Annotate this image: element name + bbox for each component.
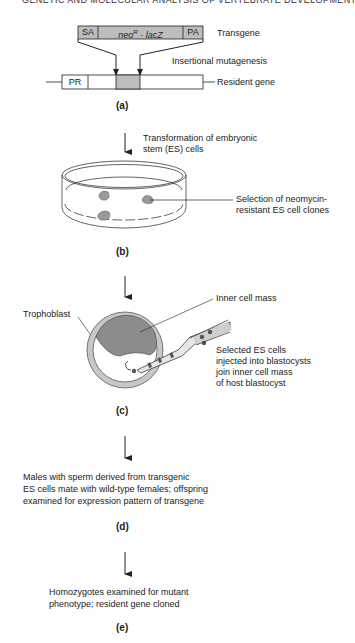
inner-cell-mass-label: Inner cell mass [216,293,277,304]
insertional-mutagenesis-label: Insertional mutagenesis [172,56,267,67]
injection-text-3: join inner cell mass [216,367,293,378]
diagram-canvas [0,0,355,643]
mating-text-2: ES cells mate with wild-type females; of… [23,484,208,495]
petri-dish [62,161,186,228]
transformation-text-1: Transformation of embryonic [143,133,257,144]
trophoblast-label: Trophoblast [23,309,70,320]
injection-text-1: Selected ES cells [216,345,286,356]
transgene-label: Transgene [217,28,260,39]
homozygote-text-1: Homozygotes examined for mutant [49,587,189,598]
caption-d: (d) [116,521,129,532]
selection-label-2: resistant ES cell clones [236,205,329,216]
mating-text-3: examined for expression pattern of trans… [23,496,204,507]
caption-e: (e) [116,622,128,633]
caption-c: (c) [116,405,128,416]
caption-a: (a) [116,100,128,111]
injection-text-2: injected into blastocysts [216,356,311,367]
trophoblast-leader-line [78,317,90,334]
selection-label-1: Selection of neomycin- [236,194,327,205]
injection-text-4: of host blastocyst [216,378,286,389]
es-cell-colonies [98,191,153,220]
inner-cell-mass-leader-line [140,299,213,332]
mating-text-1: Males with sperm derived from transgenic [23,472,190,483]
lacz-text: - lacZ [138,30,163,40]
blastocyst [87,312,163,388]
segment-neo-lacz: neoR - lacZ [98,26,183,41]
segment-sa: SA [78,26,98,38]
homozygote-text-2: phenotype; resident gene cloned [49,599,180,610]
neo-text: neo [118,30,133,40]
resident-gene-label: Resident gene [217,77,275,88]
segment-pr: PR [62,76,88,88]
segment-pa: PA [183,26,203,38]
transformation-text-2: stem (ES) cells [143,144,204,155]
caption-b: (b) [116,246,129,257]
